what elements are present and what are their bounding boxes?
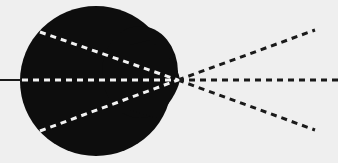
optics-diagram <box>0 0 338 163</box>
diagram-canvas <box>0 0 338 163</box>
focal-point <box>177 79 180 82</box>
